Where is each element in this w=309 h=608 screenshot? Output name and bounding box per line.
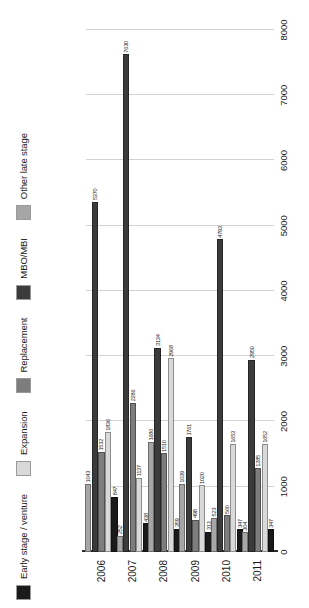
category-axis-label: 2007 xyxy=(127,560,138,596)
bar-group: 16863134151029683592008 xyxy=(149,30,180,552)
x-axis-tick-label: 6000 xyxy=(278,150,289,171)
legend-swatch-icon xyxy=(16,461,31,476)
bar xyxy=(105,432,111,552)
bar-row: 1043 xyxy=(85,30,91,552)
bar-value-label: 3134 xyxy=(155,334,161,346)
bar-value-label: 304 xyxy=(242,522,248,531)
bar-row: 1652 xyxy=(262,30,268,552)
bar xyxy=(186,437,192,552)
bar-value-label: 560 xyxy=(224,505,230,514)
bar-row: 1020 xyxy=(199,30,205,552)
bar-group: 10435370153218368472006 xyxy=(86,30,117,552)
bar-value-label: 1652 xyxy=(262,431,268,443)
bar xyxy=(268,529,274,552)
legend-item: Replacement xyxy=(16,318,31,394)
x-axis-tick-label: 7000 xyxy=(278,85,289,106)
legend-swatch-icon xyxy=(16,205,31,220)
bar-value-label: 1043 xyxy=(85,471,91,483)
bar xyxy=(161,453,167,552)
bar-row: 3134 xyxy=(154,30,160,552)
x-axis-tick-label: 4000 xyxy=(278,280,289,301)
bar xyxy=(179,484,185,552)
bar-value-label: 1020 xyxy=(199,472,205,484)
bar-value-label: 1039 xyxy=(179,471,185,483)
legend-item-label: MBO/MBI xyxy=(18,238,29,278)
bar-value-label: 2286 xyxy=(130,390,136,402)
legend-item: Expansion xyxy=(16,412,31,476)
x-axis-tick-label: 1000 xyxy=(278,476,289,497)
bar-row: 2286 xyxy=(130,30,136,552)
bar xyxy=(248,360,254,552)
bar-value-label: 1653 xyxy=(230,431,236,443)
bar-row: 1653 xyxy=(230,30,236,552)
bar-value-label: 1510 xyxy=(161,440,167,452)
bar xyxy=(123,54,129,552)
bar-row: 1039 xyxy=(179,30,185,552)
bar xyxy=(217,239,223,552)
bar xyxy=(148,442,154,552)
x-axis-tick-label: 3000 xyxy=(278,346,289,367)
category-axis-label: 2006 xyxy=(96,560,107,596)
bar-row: 304 xyxy=(242,30,248,552)
x-axis-tick-label: 5000 xyxy=(278,215,289,236)
legend-swatch-icon xyxy=(16,285,31,300)
category-axis-label: 2009 xyxy=(190,560,201,596)
bar xyxy=(262,444,268,552)
bar-row: 1285 xyxy=(255,30,261,552)
bar xyxy=(255,468,261,552)
category-axis-label: 2011 xyxy=(252,560,263,596)
bar-value-label: 7630 xyxy=(123,41,129,53)
bar-row: 5370 xyxy=(92,30,98,552)
bar xyxy=(154,348,160,552)
bar-group: 3042950128516523472011 xyxy=(243,30,274,552)
bar xyxy=(117,536,123,552)
bar-value-label: 5370 xyxy=(92,188,98,200)
bar-value-label: 252 xyxy=(117,525,123,534)
legend-item-label: Early stage / venture xyxy=(18,494,29,579)
bar-value-label: 1761 xyxy=(186,424,192,436)
bar-value-label: 2950 xyxy=(249,346,255,358)
bar-row: 1532 xyxy=(98,30,104,552)
bar-row: 2968 xyxy=(168,30,174,552)
bar-row: 523 xyxy=(211,30,217,552)
bar-row: 1836 xyxy=(105,30,111,552)
legend-item-label: Other late stage xyxy=(18,133,29,199)
bar-group: 1039176149810203132009 xyxy=(180,30,211,552)
bar xyxy=(85,484,91,552)
bar xyxy=(92,202,98,552)
bar xyxy=(199,485,205,552)
legend-item: Early stage / venture xyxy=(16,494,31,600)
bar xyxy=(224,515,230,552)
bar-row: 2950 xyxy=(248,30,254,552)
bar xyxy=(130,403,136,552)
bar-value-label: 1137 xyxy=(136,465,142,476)
bar-value-label: 1285 xyxy=(255,455,261,467)
bar-row: 1510 xyxy=(161,30,167,552)
legend-item-label: Expansion xyxy=(18,412,29,455)
bar-group: 2527630228611374382007 xyxy=(117,30,148,552)
bar-value-label: 498 xyxy=(192,509,198,518)
plot-area: 0100020003000400050006000700080001043537… xyxy=(86,30,274,552)
bar xyxy=(230,444,236,552)
bar-row: 1137 xyxy=(136,30,142,552)
bar-value-label: 1836 xyxy=(105,419,111,431)
x-axis-tick-label: 8000 xyxy=(278,19,289,40)
bar-row: 7630 xyxy=(123,30,129,552)
chart-stage: Early stage / ventureExpansionReplacemen… xyxy=(0,0,309,608)
legend-swatch-icon xyxy=(16,379,31,394)
bar-row: 252 xyxy=(117,30,123,552)
bar-value-label: 2968 xyxy=(168,345,174,357)
bar xyxy=(211,518,217,552)
bar xyxy=(168,358,174,552)
category-axis-label: 2010 xyxy=(221,560,232,596)
bar-value-label: 523 xyxy=(211,508,217,517)
chart-legend: Early stage / ventureExpansionReplacemen… xyxy=(16,133,31,600)
bar-row: 1761 xyxy=(186,30,192,552)
legend-item-label: Replacement xyxy=(18,318,29,373)
bar-value-label: 347 xyxy=(268,519,274,528)
legend-swatch-icon xyxy=(16,585,31,600)
bar-value-label: 1686 xyxy=(148,429,154,441)
bar-value-label: 4793 xyxy=(217,226,223,238)
x-axis-tick-label: 0 xyxy=(278,549,289,554)
legend-item: Other late stage xyxy=(16,133,31,220)
